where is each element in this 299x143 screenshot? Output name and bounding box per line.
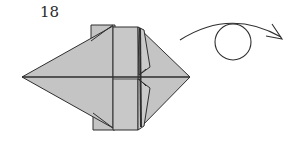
turn-over-icon [180,23,282,60]
circle-icon [215,24,251,60]
arc-arrow [180,23,281,40]
origami-diagram-canvas: 18 [0,0,299,143]
center-panel [113,27,138,130]
origami-model [0,0,299,143]
